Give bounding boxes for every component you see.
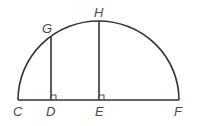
label-H: H <box>94 5 104 20</box>
label-D: D <box>46 104 55 119</box>
geometry-diagram: C D E F G H <box>0 0 201 126</box>
label-C: C <box>13 104 23 119</box>
label-E: E <box>95 104 104 119</box>
label-F: F <box>174 104 183 119</box>
label-G: G <box>42 21 52 36</box>
